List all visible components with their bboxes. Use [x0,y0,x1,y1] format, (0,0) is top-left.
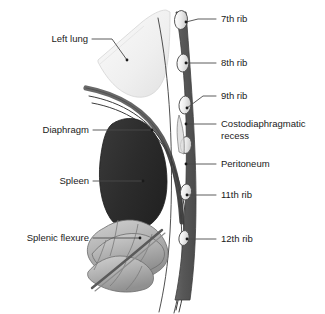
leader-dot-diaphragm [151,129,154,132]
leader-dot-8th-rib [185,62,188,65]
leader-dot-peritoneum [185,163,188,166]
anatomy-figure: 7th rib 8th rib 9th rib Costodiaphragmat… [0,0,325,314]
label-text-peritoneum: Peritoneum [221,158,270,169]
leader-dot-9th-rib [186,107,189,110]
leader-dot-spleen [142,180,145,183]
label-text-left-lung: Left lung [52,33,88,44]
label-text-splenic-flexure: Splenic flexure [27,232,89,243]
leader-dot-left-lung [126,59,129,62]
label-text-costodiaphragmatic-recess-line1: Costodiaphragmatic [221,118,306,129]
label-text-diaphragm: Diaphragm [43,124,90,135]
leader-dot-12th-rib [186,238,189,241]
label-text-spleen: Spleen [59,175,89,186]
label-text-9th-rib: 9th rib [221,90,247,101]
leader-dot-costodiaphragmatic-recess [185,123,188,126]
leader-dot-splenic-flexure [139,237,142,240]
label-text-11th-rib: 11th rib [221,189,252,200]
leader-dot-11th-rib [186,194,189,197]
label-text-7th-rib: 7th rib [221,13,247,24]
label-text-costodiaphragmatic-recess-line2: recess [221,130,249,141]
label-text-12th-rib: 12th rib [221,233,253,244]
leader-dot-7th-rib [185,21,188,24]
label-text-8th-rib: 8th rib [221,57,247,68]
